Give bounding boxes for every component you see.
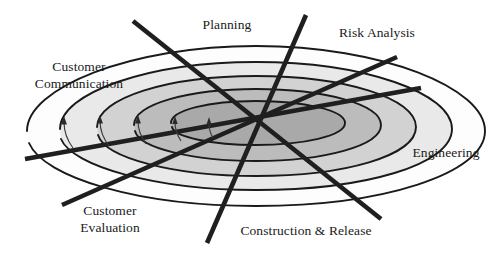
spiral-model-diagram: Planning Risk Analysis Customer Communic… — [0, 0, 499, 266]
label-planning: Planning — [182, 17, 272, 33]
label-engineering: Engineering — [396, 145, 496, 161]
label-risk-analysis: Risk Analysis — [322, 25, 432, 41]
label-customer-communication: Customer Communication — [18, 58, 140, 92]
label-customer-evaluation: Customer Evaluation — [60, 202, 160, 236]
label-construction-release: Construction & Release — [226, 223, 386, 239]
